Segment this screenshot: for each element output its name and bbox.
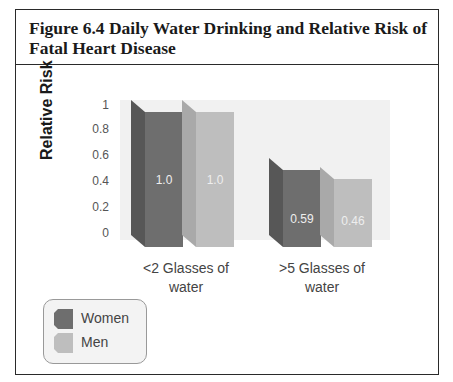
y-tick-0: 0: [79, 226, 109, 240]
y-tick-0.4: 0.4: [79, 174, 109, 188]
women-swatch-icon: [54, 309, 73, 329]
bar-men-lt2: 1.0: [182, 100, 234, 247]
bar-women-gt5: 0.59: [269, 158, 321, 247]
bar-men-gt5: 0.46: [320, 167, 372, 247]
y-tick-0.6: 0.6: [79, 148, 109, 162]
figure-title-box: Figure 6.4 Daily Water Drinking and Rela…: [16, 10, 438, 65]
y-tick-1: 1: [79, 98, 109, 112]
legend: Women Men: [43, 299, 147, 364]
y-axis-label: Relative Risk: [38, 60, 56, 160]
x-category-gt5: >5 Glasses of water: [267, 259, 377, 297]
y-tick-0.2: 0.2: [79, 200, 109, 214]
figure-title: Figure 6.4 Daily Water Drinking and Rela…: [29, 18, 429, 58]
bar-women-lt2: 1.0: [131, 100, 183, 247]
x-category-lt2: <2 Glasses of water: [131, 259, 241, 297]
men-swatch-icon: [54, 333, 73, 353]
y-tick-0.8: 0.8: [79, 122, 109, 136]
